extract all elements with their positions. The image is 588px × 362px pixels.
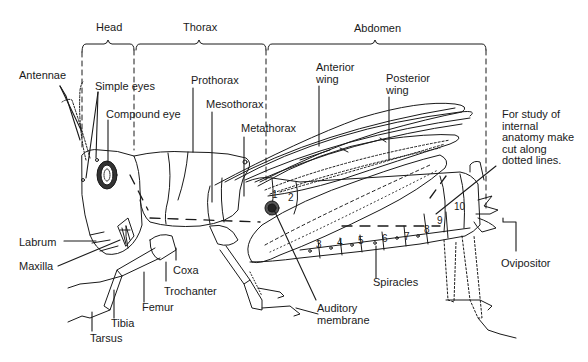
- thorax: [134, 152, 250, 227]
- label-simple-eyes: Simple eyes: [95, 80, 155, 92]
- region-label-abdomen: Abdomen: [354, 22, 401, 34]
- grasshopper-anatomy-diagram: Head Thorax Abdomen Antennae Simple eyes…: [0, 0, 588, 362]
- segment-number: 8: [424, 224, 430, 235]
- label-spiracles: Spiracles: [373, 276, 418, 288]
- label-tarsus: Tarsus: [90, 332, 122, 344]
- region-label-thorax: Thorax: [183, 21, 217, 33]
- label-coxa: Coxa: [173, 264, 199, 276]
- simple-eye: [96, 159, 99, 162]
- label-prothorax: Prothorax: [191, 74, 239, 86]
- segment-number: 3: [316, 239, 322, 250]
- segment-number: 2: [288, 192, 294, 203]
- segment-number: 1: [272, 189, 278, 200]
- label-mesothorax: Mesothorax: [206, 98, 263, 110]
- label-compound-eye: Compound eye: [106, 108, 181, 120]
- label-anterior-wing: Anterior wing: [316, 61, 355, 85]
- legs: [68, 218, 516, 338]
- segment-number: 5: [358, 235, 364, 246]
- label-trochanter: Trochanter: [164, 285, 217, 297]
- segment-number: 6: [382, 233, 388, 244]
- label-ovipositor: Ovipositor: [501, 257, 551, 269]
- diagram-drawing: [0, 0, 588, 362]
- label-antennae: Antennae: [19, 69, 66, 81]
- label-auditory-membrane: Auditory membrane: [317, 302, 370, 326]
- label-metathorax: Metathorax: [241, 122, 296, 134]
- segment-number: 10: [454, 201, 465, 212]
- segment-number: 9: [437, 215, 443, 226]
- anterior-wing: [215, 103, 472, 185]
- region-label-head: Head: [96, 21, 122, 33]
- label-posterior-wing: Posterior wing: [386, 72, 430, 96]
- segment-number: 7: [404, 231, 410, 242]
- label-tibia: Tibia: [111, 317, 134, 329]
- label-femur: Femur: [142, 301, 174, 313]
- label-maxilla: Maxilla: [19, 260, 53, 272]
- label-dissection-note: For study of internal anatomy make cut a…: [502, 109, 574, 167]
- antennae: [62, 82, 90, 160]
- ovipositor-shape: [474, 196, 498, 232]
- label-labrum: Labrum: [19, 236, 56, 248]
- compound-eye: [97, 161, 117, 189]
- segment-number: 4: [337, 237, 343, 248]
- simple-eye: [82, 179, 85, 182]
- auditory-membrane-shape: [265, 201, 279, 215]
